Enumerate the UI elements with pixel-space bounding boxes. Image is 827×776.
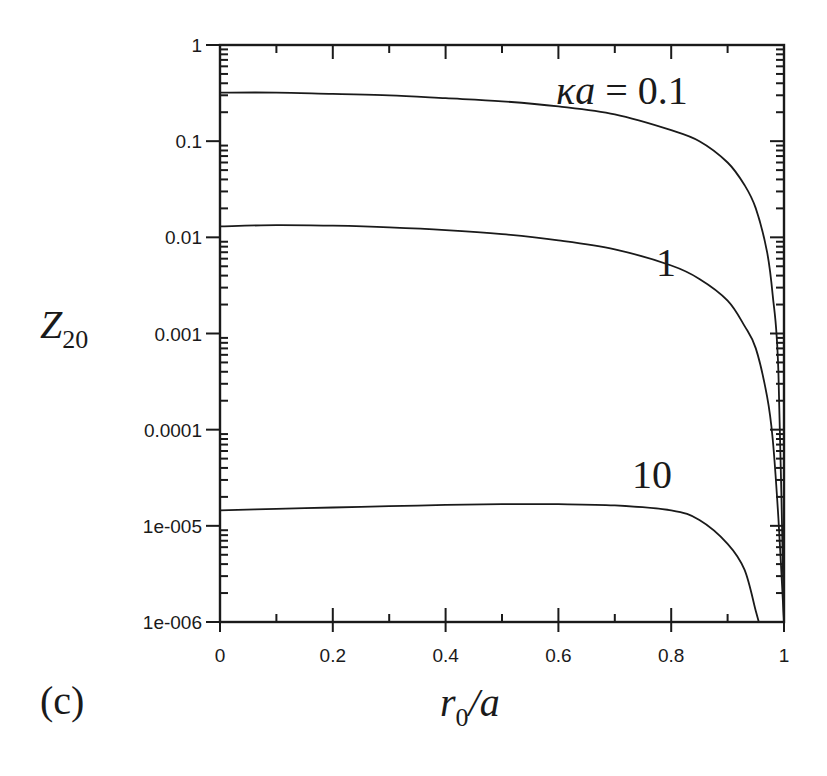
series-curve-2	[220, 504, 759, 622]
y-tick-label: 0.01	[165, 227, 202, 248]
annotation-kappa-0-1: κa = 0.1	[556, 68, 688, 113]
y-tick-label: 0.1	[176, 131, 202, 152]
x-tick-label: 0.2	[320, 645, 346, 666]
x-tick-label: 0.8	[658, 645, 684, 666]
y-tick-labels: 10.10.010.0010.00011e-0051e-006	[143, 35, 202, 633]
x-tick-label: 1	[779, 645, 790, 666]
plot-frame	[220, 45, 784, 622]
y-tick-label: 1e-005	[143, 516, 202, 537]
y-axis-label: Z20	[40, 302, 88, 354]
minor-ticks	[220, 45, 784, 622]
x-tick-label: 0.6	[545, 645, 571, 666]
annotation-kappa-10: 10	[632, 452, 672, 497]
log-line-chart: 00.20.40.60.81 10.10.010.0010.00011e-005…	[0, 0, 827, 776]
major-ticks	[206, 45, 784, 632]
annotation-kappa-1: 1	[656, 240, 676, 285]
x-tick-labels: 00.20.40.60.81	[215, 645, 790, 666]
x-tick-label: 0	[215, 645, 226, 666]
data-curves	[220, 93, 784, 622]
y-tick-label: 1	[191, 35, 202, 56]
x-axis-label: r0/a	[440, 680, 500, 732]
panel-label: (c)	[40, 678, 84, 723]
series-curve-0	[220, 93, 784, 622]
series-curve-1	[220, 225, 784, 622]
y-tick-label: 1e-006	[143, 612, 202, 633]
y-tick-label: 0.001	[154, 324, 202, 345]
x-tick-label: 0.4	[432, 645, 459, 666]
y-tick-label: 0.0001	[144, 420, 202, 441]
